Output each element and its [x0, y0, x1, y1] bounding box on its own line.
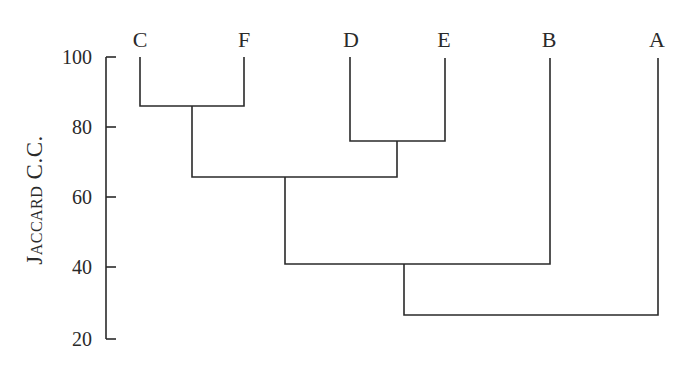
leaf-labels: C F D E B A: [133, 27, 665, 52]
leaf-label-a: A: [649, 27, 665, 52]
leaf-label-e: E: [437, 27, 450, 52]
y-tick-60: 60: [72, 186, 92, 208]
dendrogram-chart: 100 80 60 40 20 C F D E B A: [0, 0, 695, 365]
leaf-label-b: B: [542, 27, 557, 52]
link-c-f: [140, 57, 244, 106]
y-axis: [106, 57, 116, 339]
link-cfdeb-a: [404, 58, 658, 315]
y-axis-label: Jaccard C.C.: [22, 135, 48, 265]
y-tick-20: 20: [72, 328, 92, 350]
link-d-e: [350, 57, 445, 141]
y-tick-labels: 100 80 60 40 20: [62, 46, 92, 350]
leaf-label-d: D: [343, 27, 359, 52]
leaf-label-c: C: [133, 27, 148, 52]
link-cfde-b: [285, 58, 550, 264]
dendrogram-links: [140, 57, 658, 315]
y-tick-80: 80: [72, 116, 92, 138]
y-tick-40: 40: [72, 256, 92, 278]
y-tick-100: 100: [62, 46, 92, 68]
leaf-label-f: F: [238, 27, 250, 52]
